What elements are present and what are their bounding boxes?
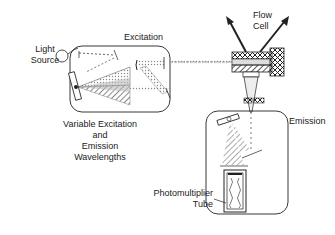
pmt-label-line2: Tube	[151, 199, 213, 210]
emission-label: Emission	[289, 116, 326, 127]
wavelength-caption-line4: Wavelengths	[50, 152, 150, 163]
flow-cell-label-line1: Flow	[253, 10, 272, 21]
pmt-label-line1: Photomultiplier	[151, 188, 213, 199]
wavelength-caption-line2: and	[50, 130, 150, 141]
light-source-label-line2: Source	[28, 55, 62, 66]
pmt-label: Photomultiplier Tube	[151, 188, 213, 210]
emission-monochromator	[206, 111, 288, 214]
photomultiplier-tube	[224, 170, 246, 212]
inflow-arrow-icon	[226, 16, 234, 25]
wavelength-caption-line1: Variable Excitation	[50, 119, 150, 130]
wavelength-caption: Variable Excitation and Emission Wavelen…	[50, 119, 150, 163]
flow-cell-label-line2: Cell	[253, 21, 272, 32]
light-source-label: Light Source	[28, 44, 62, 66]
flow-cell-label: Flow Cell	[253, 10, 272, 32]
excitation-label: Excitation	[124, 32, 163, 43]
light-source-label-line1: Light	[28, 44, 62, 55]
wavelength-caption-line3: Emission	[50, 141, 150, 152]
